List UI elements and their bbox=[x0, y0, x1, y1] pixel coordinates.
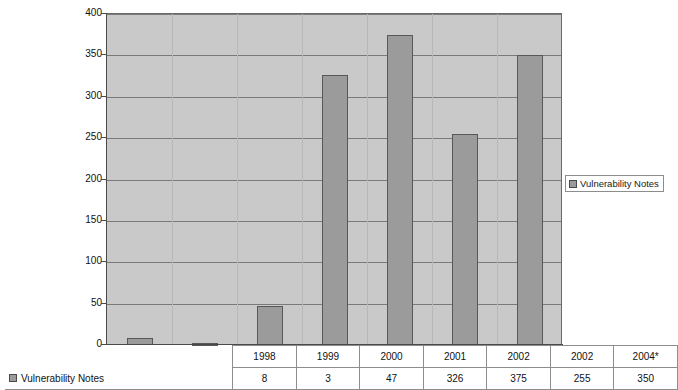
bar-2001 bbox=[322, 75, 348, 345]
gridline-350 bbox=[107, 55, 561, 56]
table-value-cell: 350 bbox=[614, 368, 678, 390]
table-header-cell: 2002 bbox=[550, 346, 614, 368]
category-separator bbox=[172, 14, 173, 344]
data-table: 1998199920002001200220022004* Vulnerabil… bbox=[5, 345, 678, 390]
y-tick-mark-250 bbox=[101, 137, 107, 138]
y-tick-label-400: 400 bbox=[70, 8, 102, 18]
table-value-cell: 3 bbox=[296, 368, 360, 390]
plot-area bbox=[107, 13, 562, 344]
table-value-cell: 47 bbox=[360, 368, 424, 390]
table-row-header: Vulnerability Notes bbox=[5, 368, 233, 390]
category-separator bbox=[367, 14, 368, 344]
table-value-cell: 255 bbox=[550, 368, 614, 390]
y-tick-label-100: 100 bbox=[70, 256, 102, 266]
series-swatch-icon bbox=[9, 374, 17, 382]
chart-legend: Vulnerability Notes bbox=[565, 175, 664, 192]
y-tick-mark-150 bbox=[101, 220, 107, 221]
y-tick-mark-0 bbox=[101, 344, 107, 345]
y-tick-mark-300 bbox=[101, 96, 107, 97]
table-corner-cell bbox=[5, 346, 233, 368]
y-tick-label-350: 350 bbox=[70, 49, 102, 59]
legend-swatch-icon bbox=[569, 180, 577, 188]
table-header-cell: 2004* bbox=[614, 346, 678, 368]
y-tick-mark-350 bbox=[101, 54, 107, 55]
table-header-cell: 2000 bbox=[360, 346, 424, 368]
table-row-values: Vulnerability Notes 8347326375255350 bbox=[5, 368, 678, 390]
table-value-cell: 375 bbox=[487, 368, 551, 390]
y-tick-label-300: 300 bbox=[70, 91, 102, 101]
table-value-cell: 326 bbox=[423, 368, 487, 390]
category-separator bbox=[302, 14, 303, 344]
table-row-label: Vulnerability Notes bbox=[21, 368, 104, 389]
y-tick-mark-50 bbox=[101, 303, 107, 304]
y-tick-mark-100 bbox=[101, 261, 107, 262]
y-tick-mark-400 bbox=[101, 13, 107, 14]
y-tick-label-250: 250 bbox=[70, 132, 102, 142]
bar-2002 bbox=[387, 35, 413, 345]
bar-2002 bbox=[452, 134, 478, 345]
legend-label: Vulnerability Notes bbox=[580, 178, 659, 189]
y-tick-label-50: 50 bbox=[70, 298, 102, 308]
bar-2000 bbox=[257, 306, 283, 345]
y-tick-mark-200 bbox=[101, 179, 107, 180]
y-tick-label-150: 150 bbox=[70, 215, 102, 225]
table-header-cell: 1999 bbox=[296, 346, 360, 368]
table-header-cell: 2001 bbox=[423, 346, 487, 368]
y-axis-labels: 050100150200250300350400 bbox=[62, 0, 102, 389]
table-value-cell: 8 bbox=[233, 368, 297, 390]
table-row-categories: 1998199920002001200220022004* bbox=[5, 346, 678, 368]
gridline-400 bbox=[107, 14, 561, 15]
category-separator bbox=[237, 14, 238, 344]
table-header-cell: 1998 bbox=[233, 346, 297, 368]
category-separator bbox=[432, 14, 433, 344]
category-separator bbox=[497, 14, 498, 344]
y-tick-label-200: 200 bbox=[70, 174, 102, 184]
bar-2004* bbox=[517, 55, 543, 345]
table-header-cell: 2002 bbox=[487, 346, 551, 368]
